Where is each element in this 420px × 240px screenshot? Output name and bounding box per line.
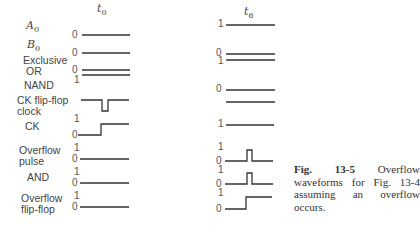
wave-t0-ck-flipflop-clock — [81, 100, 129, 111]
wave-t6-overflow-pulse — [225, 150, 273, 161]
wave-t6-and — [225, 173, 273, 184]
caption-number: Fig. 13-5 — [294, 163, 355, 175]
figure-caption: Fig. 13-5 Overflow waveforms for Fig. 13… — [294, 163, 420, 213]
wave-t6-overflow-flipflop — [225, 197, 272, 209]
wave-t0-ck — [78, 124, 129, 135]
